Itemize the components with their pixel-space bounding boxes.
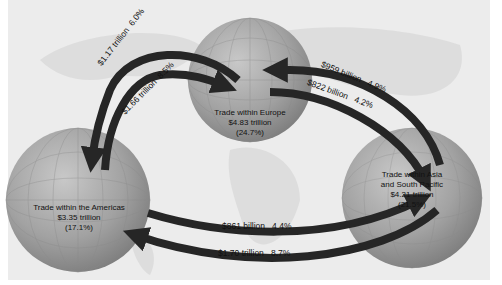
diagram-graphics xyxy=(0,0,502,285)
region-label-asia: Trade within Asia and South Pacific $4.2… xyxy=(362,170,462,210)
trade-flow-diagram: Trade within the Americas $3.35 trillion… xyxy=(0,0,502,285)
flow-label-americas-asia: $861 billion 4.4% xyxy=(222,222,291,231)
globe-americas xyxy=(6,128,150,272)
flow-label-asia-americas: $1.70 trillion 8.7% xyxy=(218,249,290,258)
region-label-americas: Trade within the Americas $3.35 trillion… xyxy=(20,203,138,233)
region-label-europe: Trade within Europe $4.83 trillion (24.7… xyxy=(200,108,300,138)
